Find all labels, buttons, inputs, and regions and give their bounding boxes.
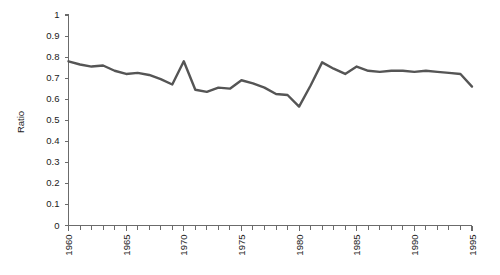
x-axis-tick-label: 1975	[236, 235, 247, 256]
x-axis-tick-label: 1995	[467, 235, 478, 256]
y-axis-tick-label: 1	[54, 9, 59, 20]
y-axis-tick-label: 0.3	[46, 156, 59, 167]
x-axis-tick-label: 1985	[351, 235, 362, 256]
y-axis-tick-label: 0.5	[46, 114, 59, 125]
y-axis-tick-label: 0.9	[46, 30, 59, 41]
x-axis-tick-label: 1990	[409, 235, 420, 256]
x-axis-tick-label: 1980	[294, 235, 305, 256]
y-axis-tick-label: 0	[54, 220, 59, 231]
y-axis-tick-label: 0.1	[46, 198, 59, 209]
chart-background	[0, 0, 500, 275]
y-axis-tick-label: 0.4	[46, 135, 59, 146]
y-axis-tick-label: 0.8	[46, 51, 59, 62]
y-axis-tick-label: 0.6	[46, 93, 59, 104]
x-axis-tick-label: 1960	[63, 235, 74, 256]
y-axis-tick-label: 0.7	[46, 72, 59, 83]
y-axis-title: Ratio	[15, 111, 26, 133]
x-axis-tick-label: 1965	[121, 235, 132, 256]
chart-container: 00.10.20.30.40.50.60.70.80.91 1960196519…	[0, 0, 500, 275]
y-axis-tick-label: 0.2	[46, 177, 59, 188]
line-chart: 00.10.20.30.40.50.60.70.80.91 1960196519…	[0, 0, 500, 275]
x-axis-tick-label: 1970	[178, 235, 189, 256]
